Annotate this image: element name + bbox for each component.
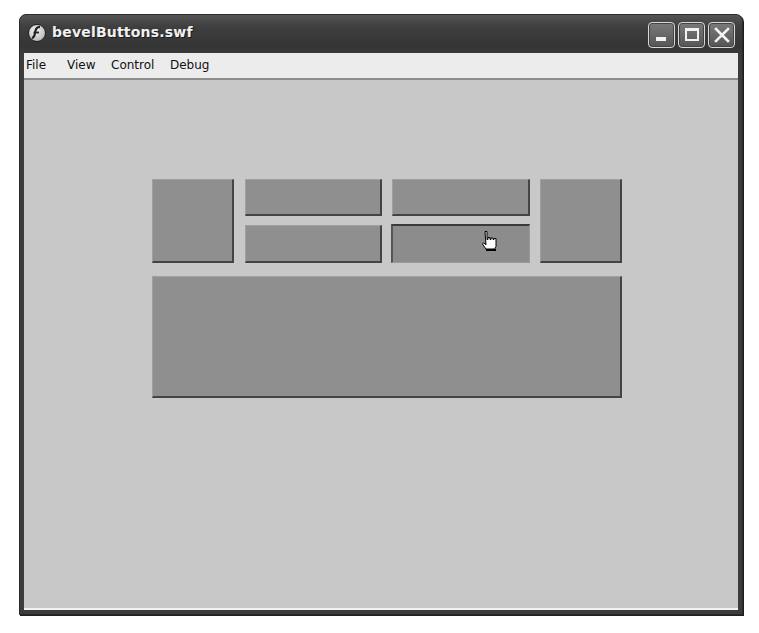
flash-player-icon[interactable]: [28, 24, 46, 42]
bevel-button-bottom-middle-right[interactable]: [391, 224, 530, 263]
window-title: bevelButtons.swf: [52, 24, 193, 40]
menu-view[interactable]: View: [67, 58, 95, 72]
bevel-button-top-middle-left[interactable]: [245, 179, 382, 216]
menu-debug[interactable]: Debug: [170, 58, 209, 72]
minimize-icon: [656, 37, 666, 41]
bevel-button-left-tall[interactable]: [152, 179, 234, 263]
menu-file[interactable]: File: [26, 58, 46, 72]
bevel-button-top-middle-right[interactable]: [392, 179, 530, 216]
swf-stage: [24, 80, 738, 610]
maximize-icon: [685, 28, 699, 41]
minimize-button[interactable]: [648, 22, 675, 48]
menu-control[interactable]: Control: [111, 58, 154, 72]
bevel-button-bottom-middle-left[interactable]: [245, 225, 382, 263]
flash-player-window: bevelButtons.swf File View Control Debug: [19, 14, 743, 615]
close-icon: [714, 27, 730, 43]
close-button[interactable]: [708, 22, 735, 48]
bevel-button-wide-bottom[interactable]: [152, 276, 622, 398]
menu-bar: File View Control Debug: [24, 53, 738, 80]
title-bar[interactable]: bevelButtons.swf: [20, 15, 742, 53]
bevel-button-right-tall[interactable]: [540, 179, 622, 263]
maximize-button[interactable]: [678, 22, 705, 48]
